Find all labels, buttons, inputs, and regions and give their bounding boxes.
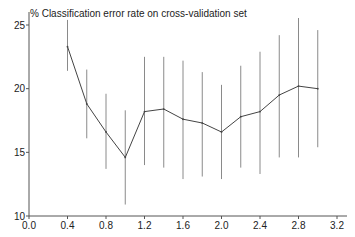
y-tick-label: 25 — [14, 20, 26, 31]
x-tick-label: 2.0 — [215, 220, 229, 231]
data-point — [86, 103, 88, 105]
x-tick-label: 3.2 — [330, 220, 344, 231]
data-series — [67, 46, 319, 159]
x-tick-label: 0.4 — [61, 220, 75, 231]
data-point — [67, 46, 69, 48]
data-point — [144, 111, 146, 113]
chart-title: % Classification error rate on cross-val… — [30, 8, 247, 19]
data-point — [105, 131, 107, 133]
data-point — [259, 111, 261, 113]
data-point — [182, 118, 184, 120]
data-point — [221, 131, 223, 133]
data-point — [278, 94, 280, 96]
chart-container: 101520250.00.40.81.21.62.02.42.83.2 % Cl… — [0, 0, 355, 237]
x-tick-label: 0.0 — [22, 220, 36, 231]
y-tick-label: 15 — [14, 147, 26, 158]
data-point — [317, 88, 319, 90]
series-line — [68, 47, 318, 158]
x-tick-label: 0.8 — [99, 220, 113, 231]
x-tick-label: 2.4 — [253, 220, 267, 231]
x-tick-label: 1.2 — [138, 220, 152, 231]
data-point — [240, 116, 242, 118]
x-tick-label: 2.8 — [292, 220, 306, 231]
axes: 101520250.00.40.81.21.62.02.42.83.2 — [14, 12, 347, 231]
error-bars — [68, 18, 318, 205]
error-rate-chart: 101520250.00.40.81.21.62.02.42.83.2 % Cl… — [0, 0, 355, 237]
data-point — [163, 108, 165, 110]
x-tick-label: 1.6 — [176, 220, 190, 231]
data-point — [298, 85, 300, 87]
y-tick-label: 20 — [14, 83, 26, 94]
data-point — [201, 122, 203, 124]
data-point — [124, 157, 126, 159]
